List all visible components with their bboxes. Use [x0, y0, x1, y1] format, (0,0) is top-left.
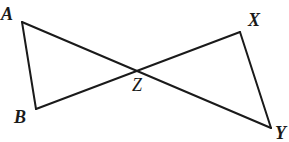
- segment-AB: [22, 22, 36, 109]
- geometry-diagram: [0, 0, 289, 142]
- vertex-label-b: B: [14, 108, 26, 126]
- geometry-figure: A B X Y Z: [0, 0, 289, 142]
- vertex-label-z: Z: [132, 76, 142, 94]
- segment-XY: [240, 32, 271, 128]
- segment-AY: [22, 22, 271, 128]
- vertex-label-y: Y: [275, 124, 286, 142]
- vertex-label-x: X: [248, 11, 260, 29]
- vertex-label-a: A: [1, 5, 13, 23]
- segment-BX: [36, 32, 240, 109]
